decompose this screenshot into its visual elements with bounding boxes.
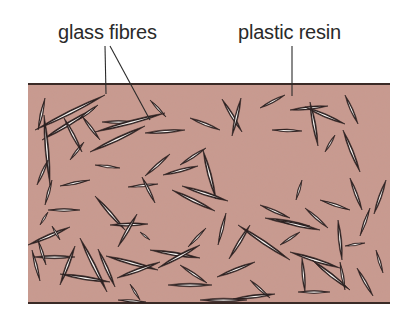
composite-diagram — [0, 0, 411, 323]
